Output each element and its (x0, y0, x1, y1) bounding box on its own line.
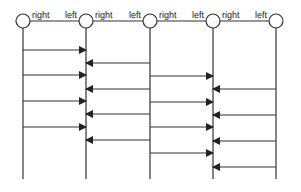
link-label-left: left (65, 10, 78, 20)
link-label-left: left (255, 10, 268, 20)
link-label-right: right (32, 10, 50, 20)
node-circle-icon (269, 14, 283, 28)
link-label-right: right (95, 10, 113, 20)
link-label-left: left (192, 10, 205, 20)
sequence-diagram: rightleftrightleftrightleftrightleft (0, 0, 301, 192)
node-circle-icon (79, 14, 93, 28)
link-label-left: left (129, 10, 142, 20)
node-circle-icon (206, 14, 220, 28)
link-label-right: right (222, 10, 240, 20)
lifelines (23, 28, 276, 179)
link-label-right: right (159, 10, 177, 20)
node-circle-icon (143, 14, 157, 28)
node-circle-icon (16, 14, 30, 28)
